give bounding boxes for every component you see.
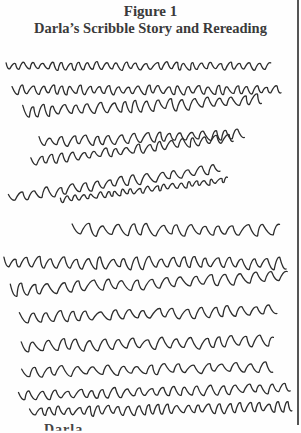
scribble-line	[72, 223, 279, 236]
scanned-page: Figure 1 Darla’s Scribble Story and Rere…	[0, 0, 301, 433]
scribble-line	[31, 134, 233, 164]
scribble-line	[22, 362, 273, 377]
scribble-line	[60, 177, 227, 203]
page-edge-border	[297, 0, 299, 425]
scribble-line	[23, 94, 262, 117]
scribble-story-image	[0, 0, 301, 433]
scribble-line	[19, 383, 291, 399]
scribble-line	[10, 271, 287, 296]
scribble-line	[19, 305, 277, 323]
scribble-line	[30, 402, 292, 417]
scribble-line	[6, 62, 271, 71]
scribble-line	[12, 85, 281, 95]
scribble-line	[21, 335, 273, 352]
scribble-line	[4, 256, 286, 269]
